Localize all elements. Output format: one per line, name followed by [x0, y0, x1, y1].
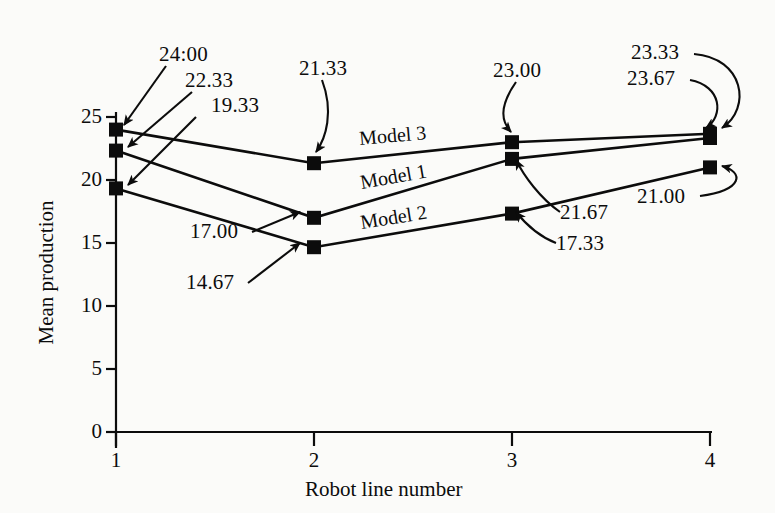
arrow-14-67	[248, 243, 300, 283]
x-tick-label-1: 1	[101, 450, 131, 471]
y-tick-label-25: 25	[62, 106, 102, 127]
annotation-21-67: 21.67	[560, 202, 608, 223]
annotation-23-67: 23.67	[627, 68, 675, 89]
y-axis-title-text: Mean production	[34, 173, 59, 373]
arrow-23-00	[503, 82, 516, 132]
annotation-21-33: 21.33	[299, 58, 347, 79]
arrow-17-33	[516, 212, 556, 243]
annotation-23-33: 23.33	[631, 42, 679, 63]
arrow-23-67	[690, 80, 717, 128]
y-tick-label-0: 0	[62, 421, 102, 442]
data-point-marker	[109, 123, 123, 137]
y-tick-label-10: 10	[62, 295, 102, 316]
x-axis-title: Robot line number	[305, 479, 462, 500]
x-tick-marks	[116, 432, 710, 446]
annotation-21-00: 21.00	[637, 186, 685, 207]
annotation-24-00: 24:00	[159, 44, 208, 65]
x-tick-label-4: 4	[695, 450, 725, 471]
data-point-marker	[109, 144, 123, 158]
data-point-marker	[703, 131, 717, 145]
x-tick-label-2: 2	[299, 450, 329, 471]
y-tick-label-20: 20	[62, 169, 102, 190]
y-tick-label-5: 5	[62, 358, 102, 379]
annotation-22-33: 22.33	[185, 70, 233, 91]
chart-figure: Mean production 25 20 15 10 5 0 1 2 3 4 …	[0, 0, 775, 513]
arrow-23-33	[694, 54, 740, 128]
annotation-23-00: 23.00	[493, 60, 541, 81]
data-point-marker	[505, 135, 519, 149]
data-point-marker	[703, 160, 717, 174]
y-tick-label-15: 15	[62, 232, 102, 253]
data-point-marker	[307, 240, 321, 254]
y-axis-title: Mean production	[34, 170, 58, 370]
annotation-17-33: 17.33	[556, 233, 604, 254]
data-point-marker	[307, 211, 321, 225]
annotation-17-00: 17.00	[190, 221, 238, 242]
y-tick-marks	[106, 117, 116, 432]
annotation-19-33: 19.33	[211, 95, 259, 116]
arrow-21-33	[316, 80, 328, 152]
data-point-marker	[307, 156, 321, 170]
arrow-24-00	[124, 66, 166, 125]
arrow-17-00	[252, 212, 300, 232]
x-tick-label-3: 3	[497, 450, 527, 471]
annotation-14-67: 14.67	[186, 272, 234, 293]
data-point-marker	[109, 181, 123, 195]
arrow-22-33	[128, 92, 192, 147]
